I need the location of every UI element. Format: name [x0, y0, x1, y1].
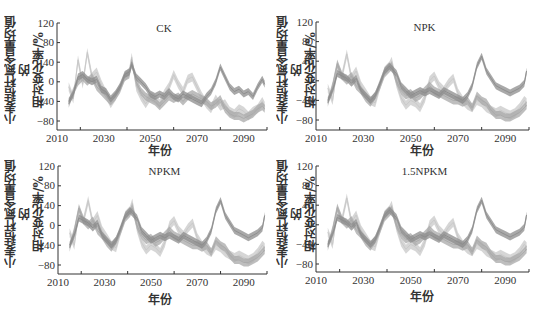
x-axis-label: 年份	[410, 287, 434, 304]
y-tick-label: −40	[37, 95, 55, 107]
x-tick-label: 2090	[494, 274, 517, 286]
y-tick-label: 40	[302, 199, 314, 211]
x-tick-label: 2010	[305, 132, 328, 144]
chart-title: CK	[156, 22, 171, 34]
x-tick-label: 2070	[186, 132, 209, 144]
chart-title: NPK	[413, 21, 435, 33]
y-tick-label: 80	[43, 36, 55, 48]
y-tick-label: −80	[38, 259, 56, 271]
plot-area: 12080400−40−80201020302050207020901.5NPK…	[272, 155, 543, 311]
y-tick-label: 120	[297, 16, 314, 28]
y-tick-label: 120	[297, 160, 314, 172]
y-tick-label: 80	[302, 179, 314, 191]
x-tick-label: 2030	[93, 276, 116, 288]
chart-panel-ck: 小麦秸秆氮含量均值的 相对变化率/% 12080400−40−802010203…	[0, 0, 272, 155]
x-tick-label: 2070	[447, 132, 470, 144]
y-tick-label: 120	[38, 17, 55, 29]
y-tick-label: −80	[296, 258, 314, 270]
x-tick-label: 2050	[400, 274, 423, 286]
y-tick-label: 80	[302, 35, 314, 47]
y-tick-label: −40	[296, 94, 314, 106]
y-tick-label: 0	[50, 219, 56, 231]
x-tick-label: 2070	[186, 276, 209, 288]
plot-area: 12080400−40−8020102030205020702090NPK	[272, 0, 543, 155]
x-tick-label: 2090	[233, 276, 256, 288]
x-axis-label: 年份	[148, 290, 172, 307]
x-tick-label: 2030	[93, 132, 116, 144]
x-tick-label: 2070	[447, 274, 470, 286]
chart-title: NPKM	[149, 165, 181, 177]
y-tick-label: 40	[44, 199, 56, 211]
chart-panel-npk: 小麦秸秆氮含量均值的 相对变化率/% 12080400−40−802010203…	[272, 0, 543, 155]
y-tick-label: 0	[308, 74, 314, 86]
y-tick-label: 40	[43, 56, 55, 68]
x-tick-label: 2030	[352, 132, 375, 144]
chart-panel-1-5npkm: 小麦秸秆氮含量均值的 相对变化率/% 12080400−40−802010203…	[272, 155, 543, 311]
chart-panel-npkm: 小麦秸秆氮含量均值的 相对变化率/% 12080400−40−802010203…	[0, 155, 272, 311]
y-tick-label: −40	[296, 238, 314, 250]
x-tick-label: 2010	[46, 132, 69, 144]
x-tick-label: 2010	[305, 274, 328, 286]
plot-area: 12080400−40−8020102030205020702090CK	[0, 0, 272, 155]
x-tick-label: 2090	[233, 132, 256, 144]
y-tick-label: −80	[296, 114, 314, 126]
chart-title: 1.5NPKM	[402, 165, 448, 177]
y-tick-label: 0	[49, 75, 55, 87]
plot-area: 12080400−40−8020102030205020702090NPKM	[0, 155, 272, 311]
y-tick-label: 120	[39, 160, 56, 172]
x-tick-label: 2010	[47, 276, 70, 288]
y-tick-label: 0	[308, 218, 314, 230]
x-tick-label: 2030	[352, 274, 375, 286]
x-tick-label: 2050	[140, 276, 163, 288]
y-tick-label: −40	[38, 239, 56, 251]
x-tick-label: 2090	[494, 132, 517, 144]
y-tick-label: −80	[37, 115, 55, 127]
y-tick-label: 40	[302, 55, 314, 67]
y-tick-label: 80	[44, 179, 56, 191]
